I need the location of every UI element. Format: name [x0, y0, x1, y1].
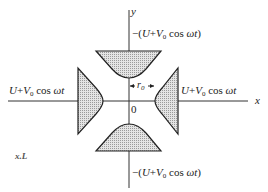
bottom-electrode	[96, 124, 161, 151]
corner-mark: x.L	[15, 152, 27, 161]
top-electrode	[96, 51, 161, 78]
bottom-electrode-label: −(U+V0 cos ωt)	[132, 167, 201, 180]
r0-arrowhead-right	[150, 84, 154, 88]
r0-label: r0	[137, 80, 144, 92]
right-electrode	[155, 68, 178, 134]
left-electrode	[78, 68, 103, 134]
right-electrode-label: U+V0 cos ωt	[181, 85, 236, 98]
r0-arrowhead-left	[130, 84, 134, 88]
origin-label: 0	[131, 104, 137, 115]
top-electrode-label: −(U+V0 cos ωt)	[132, 28, 201, 41]
y-axis-label: y	[131, 6, 136, 17]
left-electrode-label: U+V0 cos ωt	[9, 85, 64, 98]
x-axis-label: x	[255, 95, 260, 106]
